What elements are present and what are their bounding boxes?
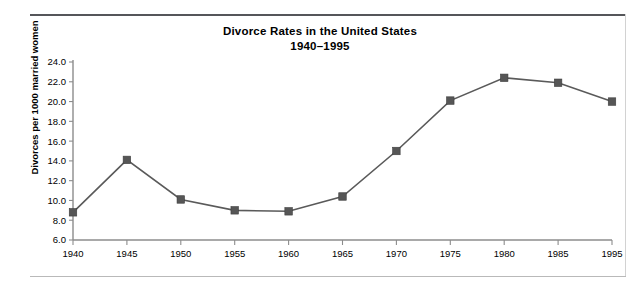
x-axis-tick-label: 1950 (170, 248, 191, 259)
y-axis-tick-label: 22.0 (48, 76, 67, 87)
x-axis-tick-label: 1970 (386, 248, 407, 259)
data-point-marker: 1975: 20.1 (447, 97, 455, 105)
data-point-marker: 1950: 10.1 (177, 196, 185, 204)
data-point-marker: 1940: 8.8 (69, 209, 77, 217)
data-point-marker: 1965: 10.4 (339, 193, 347, 201)
y-axis-tick-label: 6.0 (53, 234, 66, 245)
line-chart-plot: 6.08.010.012.014.016.018.020.022.024.019… (0, 0, 640, 292)
data-point-marker: 1945: 14.1 (123, 156, 130, 164)
series-line-divorce-rate (73, 78, 612, 212)
data-point-marker: 1985: 21.9 (554, 79, 562, 87)
y-axis-tick-label: 8.0 (53, 215, 66, 226)
x-axis-tick-label: 1995 (601, 248, 622, 259)
data-point-marker: 1970: 15 (393, 147, 401, 155)
y-axis-tick-label: 18.0 (48, 116, 67, 127)
x-axis-tick-label: 1975 (440, 248, 461, 259)
y-axis-tick-label: 20.0 (48, 96, 67, 107)
y-axis-tick-label: 12.0 (48, 175, 67, 186)
x-axis-tick-label: 1945 (116, 248, 137, 259)
y-axis-tick-label: 10.0 (48, 195, 67, 206)
data-point-marker: 1995: 20 (608, 98, 616, 106)
x-axis-tick-label: 1980 (494, 248, 515, 259)
data-point-marker: 1980: 22.4 (500, 74, 508, 82)
x-axis-tick-label: 1955 (224, 248, 245, 259)
chart-page: Divorce Rates in the United States 1940–… (0, 0, 640, 292)
y-axis-tick-label: 16.0 (48, 136, 67, 147)
y-axis-tick-label: 24.0 (48, 56, 67, 67)
x-axis-tick-label: 1965 (332, 248, 353, 259)
x-axis-tick-label: 1985 (548, 248, 569, 259)
x-axis-tick-label: 1940 (62, 248, 83, 259)
data-point-marker: 1960: 8.9 (285, 208, 293, 216)
data-point-marker: 1955: 9 (231, 207, 239, 215)
x-axis-tick-label: 1960 (278, 248, 299, 259)
y-axis-tick-label: 14.0 (48, 155, 67, 166)
chart-area: Divorces per 1000 married women 6.08.010… (0, 0, 640, 292)
